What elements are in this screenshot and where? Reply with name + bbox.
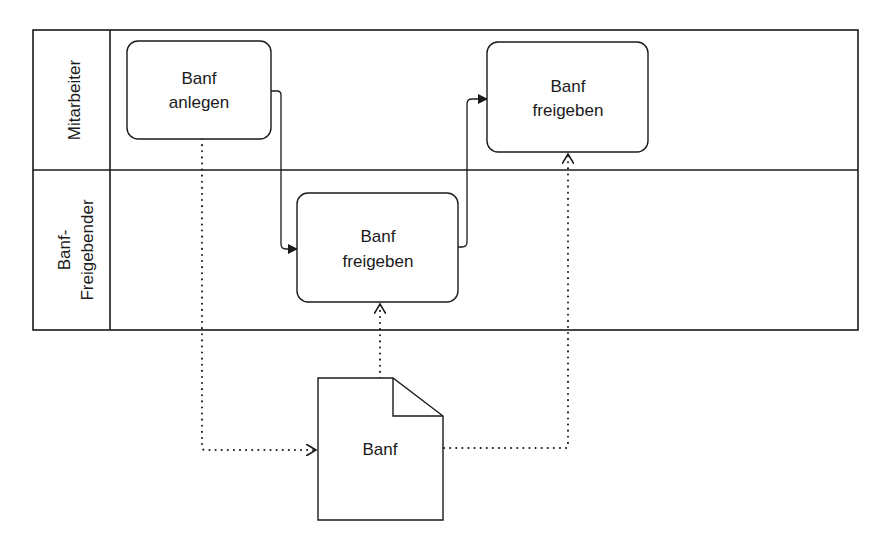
sequence-flow-freigeben-to-freigeben[interactable] (458, 99, 487, 247)
data-object-label: Banf (363, 440, 398, 459)
bpmn-diagram: Mitarbeiter Banf- Freigebender Banf anle… (0, 0, 885, 545)
task-label-line1: Banf (182, 69, 217, 88)
task-banf-freigeben-lower[interactable]: Banf freigeben (297, 193, 458, 302)
task-label-line1: Banf (361, 227, 396, 246)
task-label-line1: Banf (551, 77, 586, 96)
lane-label-text-line1: Banf- (55, 230, 74, 271)
lane-label-mitarbeiter: Mitarbeiter (65, 60, 84, 141)
task-banf-anlegen[interactable]: Banf anlegen (127, 41, 271, 139)
association-document-to-freigeben-top[interactable] (444, 154, 568, 448)
lane-label-freigebender: Banf- Freigebender (55, 199, 97, 300)
task-label-line2: freigeben (343, 252, 414, 271)
lane-label-text-line2: Freigebender (78, 199, 97, 300)
data-object-banf[interactable]: Banf (318, 378, 443, 520)
task-banf-freigeben-top[interactable]: Banf freigeben (487, 42, 648, 152)
lane-label-text: Mitarbeiter (65, 60, 84, 141)
task-label-line2: anlegen (169, 93, 230, 112)
task-label-line2: freigeben (533, 101, 604, 120)
